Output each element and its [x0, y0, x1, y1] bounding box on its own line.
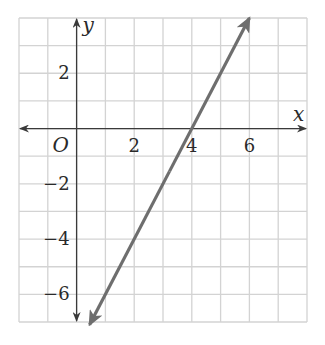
y-axis-label: y: [82, 13, 95, 37]
series-line-upper: [169, 18, 249, 171]
series-line-lower: [90, 171, 170, 324]
y-tick-label: −2: [43, 173, 70, 194]
series: [90, 18, 250, 325]
x-tick-label: 2: [128, 135, 139, 156]
y-tick-label: 2: [58, 62, 69, 83]
x-axis-label: x: [293, 102, 304, 126]
x-tick-label: 6: [244, 135, 255, 156]
origin-label: O: [53, 133, 69, 157]
y-tick-label: −6: [43, 283, 70, 304]
y-tick-label: −4: [43, 228, 70, 249]
coordinate-plane: 2462−2−4−6 x y O: [0, 0, 325, 345]
